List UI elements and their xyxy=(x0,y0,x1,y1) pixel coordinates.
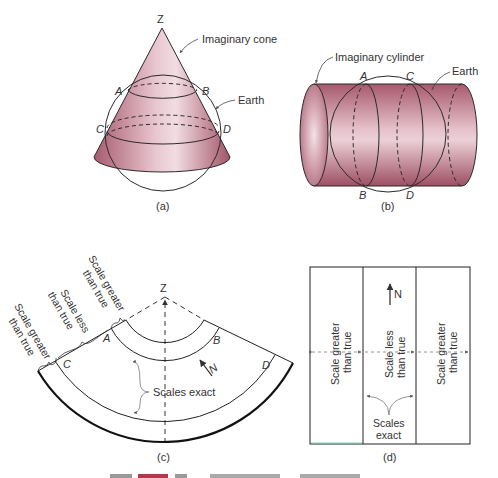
point-c-label: C xyxy=(96,123,104,135)
scales-exact-label-c: Scales exact xyxy=(153,386,215,398)
svg-text:Scale less: Scale less xyxy=(383,330,395,378)
imaginary-cylinder-label: Imaginary cylinder xyxy=(335,51,425,63)
point-b-label-c: B xyxy=(213,334,220,346)
point-d-label-b: D xyxy=(406,189,414,201)
svg-text:than true: than true xyxy=(395,336,407,378)
point-a-label-b: A xyxy=(359,70,367,82)
zone-label-outer-c: Scale greater than true xyxy=(2,301,54,368)
svg-text:Scale greater: Scale greater xyxy=(435,322,447,385)
point-c-label-c: C xyxy=(63,358,71,370)
panel-d-developed-cylinder: N Scale greater than true Scale less tha… xyxy=(310,267,470,463)
caption-d: (d) xyxy=(383,451,396,463)
svg-text:Scale greater: Scale greater xyxy=(329,322,341,385)
zone-label-inner-c: Scale greater than true xyxy=(76,253,128,320)
panel-b-cylindrical: A C B D Imaginary cylinder Earth (b) xyxy=(300,51,478,212)
point-b-label: B xyxy=(202,85,209,97)
north-label-c: N xyxy=(206,361,219,375)
earth-label-a: Earth xyxy=(238,94,264,106)
apex-z-label-c: Z xyxy=(160,282,167,294)
scales-label-d: Scales xyxy=(373,417,405,429)
caption-b: (b) xyxy=(381,200,394,212)
svg-text:than true: than true xyxy=(341,331,353,373)
caption-c: (c) xyxy=(157,451,170,463)
imaginary-cone-label: Imaginary cone xyxy=(202,33,277,45)
imaginary-cone-shape xyxy=(94,28,230,172)
point-a-label-c: A xyxy=(102,332,110,344)
point-c-label-b: C xyxy=(406,70,414,82)
point-d-label-c: D xyxy=(262,359,270,371)
svg-text:than true: than true xyxy=(447,331,459,373)
point-d-label: D xyxy=(223,123,231,135)
cropped-figure-caption xyxy=(110,474,360,478)
panel-c-developed-cone: Z A B C D N Scales exact Scale greater t… xyxy=(2,253,293,463)
figure-canvas: Z A B C D Imaginary cone Earth (a) A C B… xyxy=(0,0,498,478)
zone-label-middle-c: Scale less than true xyxy=(46,284,93,341)
panel-a-conic: Z A B C D Imaginary cone Earth (a) xyxy=(94,13,277,212)
caption-a: (a) xyxy=(156,200,169,212)
exact-label-d: exact xyxy=(376,429,401,441)
apex-z-label: Z xyxy=(157,13,164,25)
column-label-middle-d: Scale less than true xyxy=(383,330,407,378)
point-b-label-b: B xyxy=(359,189,366,201)
north-label-d: N xyxy=(394,288,402,300)
point-a-label: A xyxy=(114,85,122,97)
earth-label-b: Earth xyxy=(452,65,478,77)
imaginary-cylinder-shape xyxy=(314,84,477,186)
